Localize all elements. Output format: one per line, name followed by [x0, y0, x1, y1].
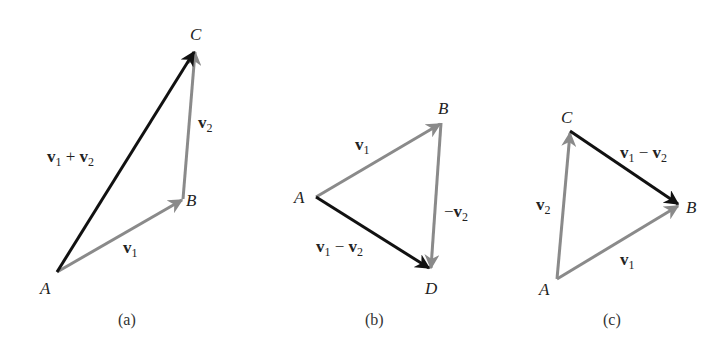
point-label-c: C	[561, 108, 573, 127]
point-label-a: A	[293, 188, 305, 207]
vector-neg-v2	[431, 123, 441, 268]
vector-diagram: A B C v1 v2 v1 + v2 (a) A B D v1 −v2 v1 …	[0, 0, 725, 347]
label-v1: v1	[123, 238, 138, 260]
label-v1-minus-v2: v1 − v2	[620, 143, 667, 165]
vector-v1	[57, 200, 182, 272]
vector-v2	[183, 52, 195, 199]
caption-a: (a)	[118, 311, 136, 329]
vector-v1	[316, 124, 440, 197]
label-neg-v2: −v2	[444, 202, 468, 224]
vector-v1-minus-v2	[316, 197, 429, 268]
label-v2: v2	[536, 195, 551, 217]
caption-c: (c)	[603, 311, 621, 329]
vector-v2	[557, 133, 570, 279]
point-label-a: A	[39, 279, 51, 298]
point-label-a: A	[538, 280, 550, 299]
point-label-b: B	[686, 198, 697, 217]
point-label-c: C	[190, 25, 202, 44]
label-v1: v1	[355, 135, 370, 157]
label-v1: v1	[620, 250, 635, 272]
label-v1-plus-v2: v1 + v2	[47, 147, 94, 169]
panel-c: A C B v1 v2 v1 − v2 (c)	[536, 108, 697, 329]
vector-v1-minus-v2	[570, 131, 678, 204]
label-v2: v2	[198, 113, 213, 135]
point-label-b: B	[438, 99, 449, 118]
panel-a: A B C v1 v2 v1 + v2 (a)	[39, 25, 213, 329]
caption-b: (b)	[365, 311, 384, 329]
point-label-b: B	[186, 191, 197, 210]
vector-v1	[557, 206, 678, 279]
point-label-d: D	[424, 279, 438, 298]
label-v1-minus-v2: v1 − v2	[316, 237, 363, 259]
panel-b: A B D v1 −v2 v1 − v2 (b)	[293, 99, 468, 329]
